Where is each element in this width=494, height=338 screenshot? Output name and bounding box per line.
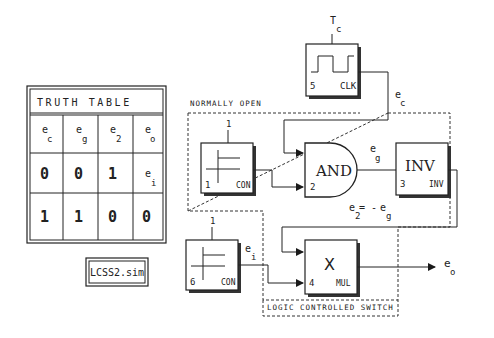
header-eg: e g [76, 124, 87, 144]
svg-text:INV: INV [405, 157, 436, 175]
logic-switch-label: LOGIC CONTROLLED SWITCH [267, 303, 394, 312]
svg-text:3: 3 [400, 179, 405, 189]
svg-text:0: 0 [74, 165, 83, 183]
svg-text:g: g [82, 134, 87, 144]
block-diagram: TRUTH TABLE e c e g e 2 e o 0 0 [0, 0, 494, 338]
svg-text:0: 0 [142, 208, 151, 226]
signal-ec: e c [395, 89, 405, 108]
header-eo: e o [145, 124, 155, 144]
header-e2: e 2 [110, 124, 121, 144]
svg-text:o: o [150, 134, 155, 144]
and-gate[interactable]: AND 2 [305, 143, 357, 197]
svg-text:4: 4 [309, 278, 314, 288]
clk-block[interactable]: T c 5 CLK [306, 15, 361, 99]
svg-text:CLK: CLK [340, 81, 357, 91]
svg-text:1: 1 [108, 165, 117, 183]
con6-block[interactable]: 1 6 CON [186, 216, 241, 293]
truth-table: TRUTH TABLE e c e g e 2 e o 0 0 [27, 86, 166, 243]
normally-open-label: NORMALLY OPEN [190, 99, 262, 108]
file-name: LCSS2.sim [90, 267, 144, 278]
svg-text:AND: AND [315, 162, 352, 180]
svg-text:c: c [47, 134, 52, 144]
truth-table-title: TRUTH TABLE [37, 97, 132, 108]
svg-text:i: i [251, 252, 256, 262]
header-ec: e c [42, 124, 52, 144]
svg-text:0: 0 [108, 208, 117, 226]
svg-text:1: 1 [210, 216, 215, 226]
svg-text:c: c [336, 24, 341, 34]
svg-text:5: 5 [310, 81, 315, 91]
mul-block[interactable]: X 4 MUL [305, 240, 360, 297]
svg-text:0: 0 [40, 165, 49, 183]
signal-e2-equation: e 2 = - e g [349, 202, 391, 221]
svg-text:INV: INV [429, 180, 444, 189]
table-row: 1 1 0 0 [40, 208, 151, 226]
svg-text:CON: CON [236, 181, 251, 190]
svg-text:1: 1 [205, 180, 210, 190]
svg-text:MUL: MUL [336, 279, 351, 288]
svg-text:1: 1 [226, 119, 231, 129]
file-label: LCSS2.sim [86, 258, 148, 286]
svg-text:2: 2 [116, 134, 121, 144]
svg-text:c: c [400, 98, 405, 108]
con1-block[interactable]: 1 1 CON [201, 119, 256, 196]
svg-text:CON: CON [221, 278, 236, 287]
svg-text:1: 1 [40, 208, 49, 226]
svg-text:o: o [450, 267, 455, 277]
svg-text:2: 2 [310, 182, 315, 192]
svg-text:1: 1 [74, 208, 83, 226]
signal-eo: e o [444, 257, 455, 277]
signal-eg: e g [370, 143, 380, 163]
inv-block[interactable]: INV 3 INV [396, 143, 451, 198]
svg-text:g: g [386, 211, 391, 221]
svg-text:i: i [151, 178, 156, 188]
svg-text:6: 6 [190, 277, 195, 287]
svg-text:X: X [324, 255, 335, 274]
signal-ei: e i [245, 243, 256, 262]
svg-text:g: g [375, 153, 380, 163]
